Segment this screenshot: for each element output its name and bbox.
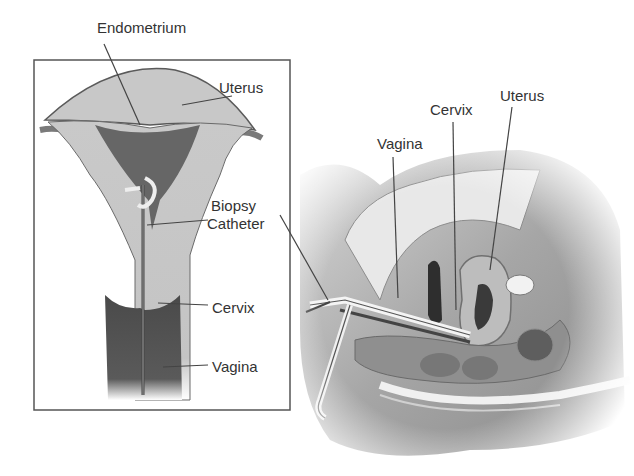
sagittal-section xyxy=(290,140,634,476)
label-endometrium: Endometrium xyxy=(97,20,186,36)
label-cervix-sagittal: Cervix xyxy=(430,102,473,118)
label-cervix-inset: Cervix xyxy=(212,300,255,316)
label-catheter: Catheter xyxy=(207,216,265,232)
endometrial-biopsy-illustration xyxy=(0,0,634,476)
label-vagina-inset: Vagina xyxy=(212,359,258,375)
label-uterus-sagittal: Uterus xyxy=(500,88,544,104)
label-uterus-inset: Uterus xyxy=(219,80,263,96)
label-vagina-sagittal: Vagina xyxy=(377,136,423,152)
label-biopsy: Biopsy xyxy=(211,198,256,214)
